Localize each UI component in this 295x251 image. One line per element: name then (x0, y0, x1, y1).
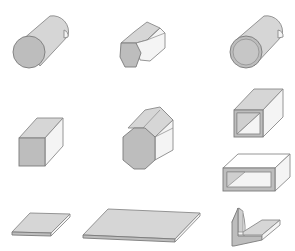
round-bar-shape (13, 16, 69, 68)
round-tube-shape (230, 16, 283, 68)
square-tube-shape (234, 89, 283, 137)
hex-bar-shape (120, 22, 165, 67)
rectangular-tube-shape (223, 154, 290, 191)
square-bar-shape (19, 118, 63, 166)
stock-shapes-diagram: .f { fill: #bdbdbd; stroke: #7a7a7a; str… (0, 0, 295, 251)
sheet-large-shape (83, 209, 200, 242)
octagon-bar-shape (123, 107, 173, 169)
plate-small-shape (12, 213, 70, 236)
angle-shape (232, 208, 280, 246)
